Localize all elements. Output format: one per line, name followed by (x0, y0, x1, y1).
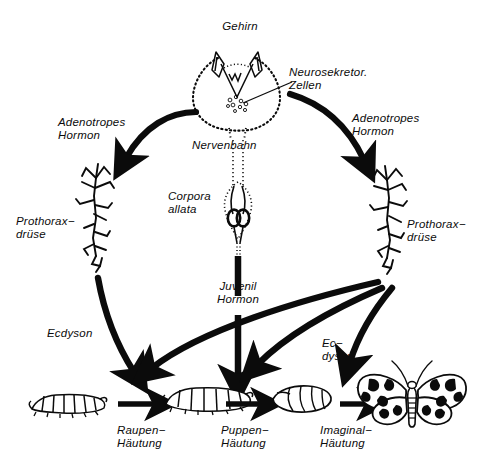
median-region-icon (221, 64, 253, 97)
neurosecretory-cell-cluster-icon (227, 95, 248, 112)
label-brain: Gehirn (205, 20, 275, 33)
pupa-chrysalis-icon (273, 386, 331, 412)
label-adenotropic-hormone-right: Adenotropes Hormon (352, 112, 448, 138)
corpora-allata-gland-icon (228, 210, 249, 227)
label-nerve-tract: Nervenbahn (192, 139, 276, 152)
label-pupal-moult: Puppen− Häutung (221, 424, 295, 450)
caterpillar-small-icon (29, 395, 106, 418)
label-neurosecretory-cells: Neurosekretor. Zellen (289, 66, 394, 92)
label-ecdysone-right: Ec− dyson (322, 337, 366, 363)
nerve-cord-group (225, 140, 252, 256)
ecdysone-arrow-left (98, 278, 134, 372)
label-juvenile-hormone: Juvenil Hormon (206, 280, 270, 306)
neurosecretory-leader-line (243, 82, 292, 103)
label-corpora-allata: Corpora allata (168, 190, 228, 216)
label-adenotropic-hormone-left: Adenotropes Hormon (58, 116, 154, 142)
label-ecdysone-left: Ecdyson (47, 327, 111, 340)
label-prothoracic-gland-right: Prothorax− drüse (407, 218, 483, 244)
label-imaginal-moult: Imaginal− Häutung (320, 424, 402, 450)
label-prothoracic-gland-left: Prothorax− drüse (16, 215, 92, 241)
brain-group (193, 52, 292, 140)
optic-lobe-icon (212, 52, 262, 77)
adult-moth-icon (358, 361, 466, 427)
label-larval-moult: Raupen− Häutung (117, 424, 191, 450)
prothoracic-gland-branching-right-icon (370, 166, 407, 274)
metamorphosis-diagram: Gehirn Neurosekretor. Zellen Adenotropes… (0, 0, 486, 467)
